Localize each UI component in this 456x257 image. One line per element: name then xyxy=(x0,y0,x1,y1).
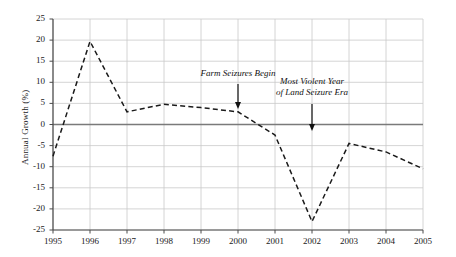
x-tick-label: 1996 xyxy=(70,236,110,246)
x-tick-label: 1995 xyxy=(33,236,73,246)
y-tick-label: -10 xyxy=(13,161,45,171)
y-tick-label: 15 xyxy=(13,55,45,65)
y-tick-label: 0 xyxy=(13,119,45,129)
y-tick-label: -5 xyxy=(13,140,45,150)
y-tick-label: 5 xyxy=(13,97,45,107)
annotation-line: of Land Seizure Era xyxy=(222,87,402,98)
y-tick-label: 20 xyxy=(13,34,45,44)
y-tick-label: 25 xyxy=(13,13,45,23)
x-tick-label: 1997 xyxy=(107,236,147,246)
y-tick-label: -25 xyxy=(13,224,45,234)
x-tick-label: 1998 xyxy=(144,236,184,246)
x-tick-label: 2004 xyxy=(366,236,406,246)
y-tick-label: -15 xyxy=(13,182,45,192)
annotation-most-violent-year: Most Violent Yearof Land Seizure Era xyxy=(222,76,402,98)
x-tick-label: 2005 xyxy=(403,236,443,246)
annotation-line: Most Violent Year xyxy=(222,76,402,87)
x-tick-label: 1999 xyxy=(181,236,221,246)
y-tick-label: -20 xyxy=(13,203,45,213)
chart-canvas xyxy=(0,0,456,257)
growth-chart: Annual Growth (%) 2520151050-5-10-15-20-… xyxy=(0,0,456,257)
y-tick-label: 10 xyxy=(13,76,45,86)
x-tick-label: 2002 xyxy=(292,236,332,246)
x-tick-label: 2003 xyxy=(329,236,369,246)
x-tick-label: 2001 xyxy=(255,236,295,246)
x-tick-label: 2000 xyxy=(218,236,258,246)
